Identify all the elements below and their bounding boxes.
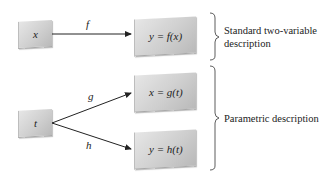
output-box-y-h: y = h(t) (134, 129, 196, 169)
standard-description-line1: Standard two-variable (224, 24, 317, 37)
input-box-x: x (18, 20, 52, 49)
input-x-label: x (33, 28, 38, 40)
output-box-y-f: y = f(x) (134, 16, 196, 56)
brace-parametric-icon (210, 66, 219, 170)
input-box-t: t (18, 109, 52, 138)
function-label-f: f (86, 18, 89, 30)
standard-description-line2: description (224, 37, 317, 50)
function-label-h: h (86, 139, 92, 151)
output-y-h-label: y = h(t) (149, 143, 183, 155)
input-t-label: t (34, 117, 37, 129)
brace-standard-icon (210, 13, 219, 60)
output-box-x-g: x = g(t) (134, 72, 196, 112)
output-x-g-label: x = g(t) (149, 86, 183, 98)
output-y-f-label: y = f(x) (149, 30, 182, 42)
parametric-description: Parametric description (224, 112, 319, 125)
standard-description: Standard two-variable description (224, 24, 317, 50)
function-label-g: g (88, 90, 94, 102)
